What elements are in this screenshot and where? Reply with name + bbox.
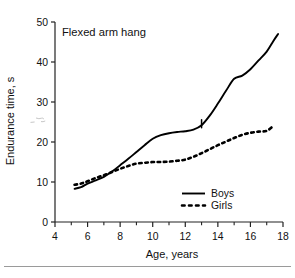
y-tick-label: 20 <box>36 137 48 148</box>
y-tick-label: 40 <box>36 57 48 68</box>
y-tick-label: 50 <box>36 17 48 28</box>
x-tick-label: 16 <box>245 231 257 242</box>
chart-title: Flexed arm hang <box>62 26 146 38</box>
x-tick-label: 14 <box>212 231 224 242</box>
flexed-arm-hang-line-chart: 01020304050 4681012141618 Flexed arm han… <box>0 0 295 278</box>
footer-divider <box>4 266 291 267</box>
legend-label-girls: Girls <box>211 200 232 211</box>
x-axis-label: Age, years <box>146 248 199 260</box>
chart-figure: 01020304050 4681012141618 Flexed arm han… <box>0 0 295 278</box>
x-tick-label: 8 <box>117 231 123 242</box>
x-tick-label: 18 <box>277 231 289 242</box>
x-tick-label: 4 <box>52 231 58 242</box>
legend-label-boys: Boys <box>211 188 234 199</box>
y-tick-label: 0 <box>42 217 48 228</box>
y-tick-label: 10 <box>36 177 48 188</box>
x-tick-label: 6 <box>85 231 91 242</box>
x-tick-label: 10 <box>147 231 159 242</box>
x-tick-label: 12 <box>180 231 192 242</box>
y-tick-label: 30 <box>36 97 48 108</box>
y-axis-label: Endurance time, s <box>4 76 16 165</box>
